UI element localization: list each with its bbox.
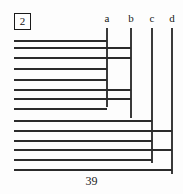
bar-row-9	[14, 120, 152, 122]
figure-index-label: 2	[20, 16, 26, 27]
bar-row-5	[14, 79, 107, 81]
figure-root: 2 abcd 39	[0, 0, 183, 194]
bar-row-6	[14, 89, 131, 91]
column-rule-b	[130, 28, 131, 118]
figure-index-box: 2	[14, 13, 31, 30]
column-label-c: c	[145, 13, 159, 24]
bar-row-11	[14, 140, 152, 142]
bar-row-10	[14, 130, 172, 132]
bar-row-3	[14, 57, 131, 59]
bar-row-7	[14, 98, 131, 100]
column-rule-d	[171, 28, 172, 174]
bar-row-13	[14, 159, 152, 161]
bar-row-1	[14, 40, 107, 42]
bar-row-12	[14, 149, 172, 151]
bar-row-4	[14, 68, 107, 70]
column-label-a: a	[100, 13, 114, 24]
bar-row-2	[14, 47, 131, 49]
figure-caption: 39	[0, 175, 183, 187]
column-label-d: d	[165, 13, 179, 24]
column-label-b: b	[124, 13, 138, 24]
column-rule-c	[151, 28, 152, 163]
bar-row-14	[14, 169, 172, 171]
bar-row-8	[14, 108, 107, 110]
